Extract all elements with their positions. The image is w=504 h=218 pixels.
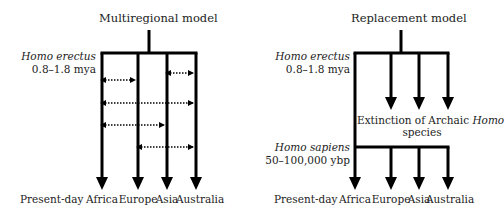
- multiregional-title: Multiregional model: [99, 12, 199, 24]
- multiregional-ancestor-name: Homo erectus: [20, 50, 96, 62]
- replacement-sapiens-date: 50–100,000 ybp: [256, 154, 350, 166]
- arrow-down-icon: [413, 97, 425, 110]
- arrow-down-icon: [349, 177, 361, 190]
- extinction-text-c: species: [402, 126, 441, 138]
- multiregional-present-label: Present-day: [20, 193, 83, 205]
- arrow-down-icon: [413, 177, 425, 190]
- replacement-ancestor-name: Homo erectus: [270, 50, 350, 62]
- arrow-down-icon: [190, 177, 202, 190]
- multiregional-ancestor-date: 0.8–1.8 mya: [20, 63, 96, 75]
- replacement-present-label: Present-day: [274, 193, 337, 205]
- multiregional-tree: [96, 30, 202, 190]
- replacement-tree: [349, 30, 454, 190]
- replacement-region-africa: Africa: [335, 193, 375, 205]
- arrow-down-icon: [385, 177, 397, 190]
- replacement-ancestor-date: 0.8–1.8 mya: [270, 63, 350, 75]
- extinction-text-a: Extinction of Archaic: [357, 114, 472, 126]
- extinction-label: Extinction of Archaic Homo species: [357, 114, 487, 138]
- arrow-down-icon: [132, 177, 144, 190]
- multiregional-region-africa: Africa: [82, 193, 122, 205]
- arrow-down-icon: [442, 97, 454, 110]
- diagram-canvas: [0, 0, 504, 218]
- arrow-down-icon: [96, 177, 108, 190]
- replacement-region-australia: Australia: [426, 193, 470, 205]
- arrow-down-icon: [161, 177, 173, 190]
- extinction-text-b: Homo: [472, 114, 504, 126]
- arrow-down-icon: [442, 177, 454, 190]
- arrow-down-icon: [385, 97, 397, 110]
- replacement-sapiens-name: Homo sapiens: [270, 141, 350, 153]
- replacement-title: Replacement model: [351, 12, 451, 24]
- multiregional-region-australia: Australia: [176, 193, 220, 205]
